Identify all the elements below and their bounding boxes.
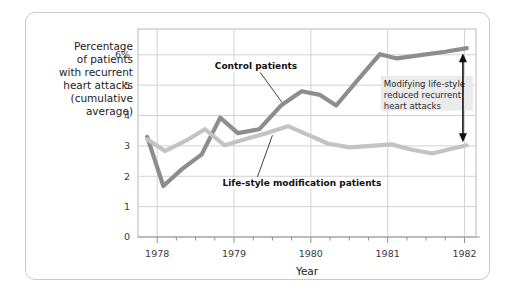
y-tick-label: 2 [124, 171, 130, 182]
line-chart: Percentage of patients with recurrent he… [26, 13, 489, 279]
lifestyle-patients-callout-text: Life-style modification patients [223, 178, 382, 188]
x-axis-ticks: 19781979198019811982 [145, 237, 476, 259]
x-axis-title: Year [295, 265, 319, 277]
gap-annotation-line-2: heart attacks [384, 101, 442, 111]
control-patients-callout-text: Control patients [215, 61, 297, 71]
x-tick-label: 1982 [452, 248, 476, 259]
x-tick-label: 1979 [222, 248, 246, 259]
x-tick-label: 1978 [145, 248, 169, 259]
x-tick-label: 1980 [299, 248, 323, 259]
gap-annotation-line-0: Modifying life-style [384, 79, 465, 89]
y-tick-label: 4 [124, 110, 130, 121]
x-tick-label: 1981 [376, 248, 400, 259]
y-tick-label: 6% [115, 49, 130, 60]
y-axis-title-line-3: heart attacks [63, 79, 133, 91]
y-tick-label: 1 [124, 201, 130, 212]
y-tick-label: 0 [124, 231, 130, 242]
y-tick-label: 5 [124, 80, 130, 91]
y-tick-label: 3 [124, 140, 130, 151]
chart-figure-panel: Percentage of patients with recurrent he… [25, 12, 490, 280]
y-axis-title-line-4: (cumulative [71, 92, 133, 104]
y-axis-title-line-2: with recurrent [59, 66, 133, 78]
gap-annotation-line-1: reduced recurrent [384, 90, 462, 100]
